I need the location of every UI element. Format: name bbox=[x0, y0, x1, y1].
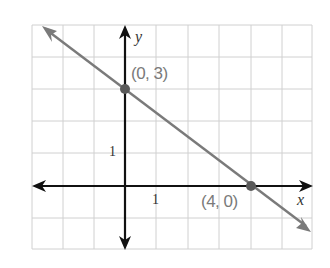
point-label-4-0: (4, 0) bbox=[201, 192, 238, 212]
point-0-3 bbox=[120, 84, 130, 94]
coordinate-plane bbox=[0, 0, 330, 268]
point-label-0-3: (0, 3) bbox=[131, 64, 168, 84]
point-4-0 bbox=[246, 181, 256, 191]
x-tick-label-1: 1 bbox=[152, 192, 159, 208]
line-arrow-upper-left bbox=[42, 26, 57, 42]
x-axis-label: x bbox=[297, 191, 304, 209]
line-series bbox=[48, 31, 306, 226]
y-tick-label-1: 1 bbox=[109, 144, 116, 160]
y-axis-label: y bbox=[135, 28, 142, 46]
grid bbox=[32, 25, 312, 249]
